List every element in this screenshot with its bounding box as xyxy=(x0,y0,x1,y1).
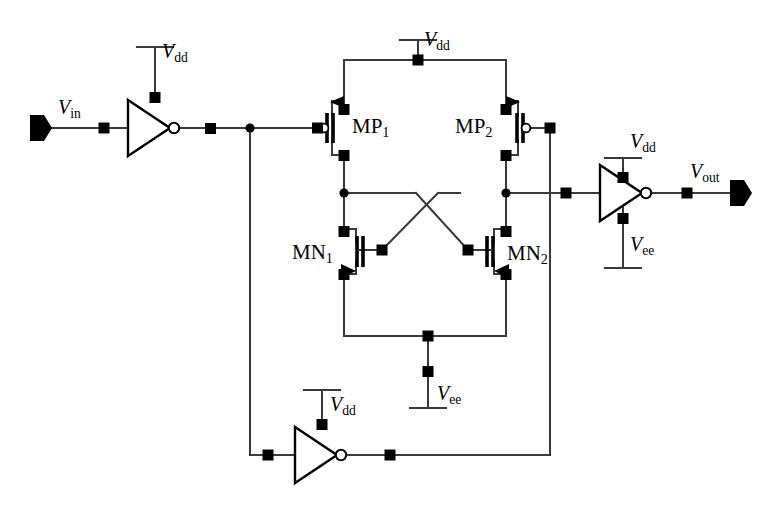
vee-tail-label: Vee xyxy=(437,382,461,408)
input-inverter-body xyxy=(128,100,170,156)
pin-vdd-rail xyxy=(413,55,424,66)
pin-mn2-source xyxy=(501,269,512,280)
output-inverter-bubble xyxy=(641,188,651,198)
pin-mn1-drain xyxy=(339,226,350,237)
circuit-svg xyxy=(0,0,772,508)
feedback-inverter-bubble xyxy=(336,450,346,460)
pin-mp1-gate xyxy=(312,123,323,134)
pin-inv1-out xyxy=(205,123,216,134)
vdd-output-inverter-label: Vdd xyxy=(630,130,656,156)
mp2-label: MP2 xyxy=(455,114,493,141)
mp1-label: MP1 xyxy=(352,114,390,141)
inverter-bodies xyxy=(128,100,642,483)
pin-mp2-gate xyxy=(545,123,556,134)
input-port-arrow xyxy=(30,115,52,141)
wire-cross-right-to-mn1gate-diag xyxy=(382,193,438,250)
input-inverter-bubble xyxy=(169,123,179,133)
pin-vee-inv3 xyxy=(618,213,629,224)
pin-feedback-in xyxy=(263,450,274,461)
output-port-arrow xyxy=(730,180,752,206)
mp2-gate-bubble xyxy=(522,124,531,133)
inverter-bubbles xyxy=(169,123,651,460)
mn1-label: MN1 xyxy=(292,240,333,267)
pin-output-inverter-in xyxy=(561,188,572,199)
vdd-input-inverter-label: Vdd xyxy=(162,40,188,66)
output-port-label: Vout xyxy=(690,160,720,186)
mn2-label: MN2 xyxy=(507,241,548,268)
vee-output-inverter-label: Vee xyxy=(630,233,654,259)
wire-mn2-source-bend xyxy=(494,274,506,336)
pin-feedback-out xyxy=(385,450,396,461)
junction-input-node xyxy=(245,123,254,132)
pin-mn1-source xyxy=(339,269,350,280)
vdd-feedback-inverter-label: Vdd xyxy=(330,393,356,419)
wire-mn1-source-bend xyxy=(344,274,356,336)
pin-mp2-source xyxy=(501,104,512,115)
input-port-label: Vin xyxy=(58,96,81,122)
pin-mn2-gate xyxy=(463,245,474,256)
pin-vdd-inv2 xyxy=(317,419,328,430)
vdd-main-rail-label: Vdd xyxy=(424,28,450,54)
feedback-inverter-body xyxy=(295,427,337,483)
junction-right-mid-node xyxy=(501,188,510,197)
pin-vdd-inv3 xyxy=(618,172,629,183)
pin-tail-node xyxy=(423,331,434,342)
pin-mn2-drain xyxy=(501,226,512,237)
pin-output xyxy=(682,188,693,199)
pin-squares xyxy=(99,55,693,461)
junction-left-mid-node xyxy=(339,188,348,197)
pin-mp1-drain xyxy=(339,150,350,161)
pin-mp2-drain xyxy=(501,150,512,161)
pin-vee-tail xyxy=(423,366,434,377)
pin-input-lead xyxy=(99,123,110,134)
schematic-canvas: Vin Vout MP1 MP2 MN1 MN2 Vdd Vdd Vdd Vee… xyxy=(0,0,772,508)
pin-mp1-source xyxy=(339,104,350,115)
wire-cross-left-to-mn2gate-diag xyxy=(416,193,468,250)
pin-mn1-gate xyxy=(377,245,388,256)
pin-vdd-inv1 xyxy=(150,92,161,103)
